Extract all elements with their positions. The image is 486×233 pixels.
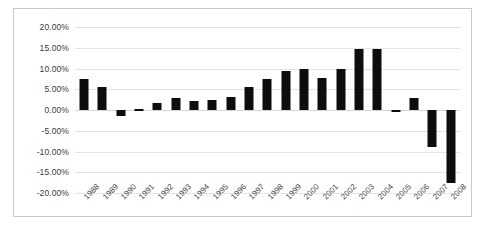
bar [98, 87, 107, 110]
bar-slot [368, 27, 386, 193]
bar [245, 87, 254, 110]
bar [318, 78, 327, 110]
bar [80, 79, 89, 110]
y-axis-labels: 20.00%15.00%10.00%5.00%0.00%-5.00%-10.00… [14, 27, 72, 193]
bar-slot [332, 27, 350, 193]
bar [226, 97, 235, 110]
bar-slot [405, 27, 423, 193]
y-axis-tick-label: 20.00% [40, 22, 69, 32]
bar-slot [222, 27, 240, 193]
bar [153, 103, 162, 110]
bar [336, 69, 345, 111]
y-axis-tick-label: -20.00% [37, 188, 69, 198]
y-axis-tick-label: 10.00% [40, 64, 69, 74]
bar-slot [442, 27, 460, 193]
bar-slot [203, 27, 221, 193]
bar-slot [258, 27, 276, 193]
bar-series [75, 27, 460, 193]
bar [446, 110, 455, 183]
bar-slot [167, 27, 185, 193]
bar [208, 100, 217, 110]
bar [410, 98, 419, 110]
bar [373, 49, 382, 110]
bar [171, 98, 180, 110]
bar [391, 110, 400, 112]
bar-slot [93, 27, 111, 193]
bar-slot [423, 27, 441, 193]
y-axis-tick-label: -10.00% [37, 147, 69, 157]
y-axis-tick-label: -15.00% [37, 167, 69, 177]
bar [116, 110, 125, 116]
bar [263, 79, 272, 110]
bar-slot [295, 27, 313, 193]
bar-slot [387, 27, 405, 193]
y-axis-tick-label: 15.00% [40, 43, 69, 53]
bar [428, 110, 437, 147]
bar [281, 71, 290, 110]
bar-slot [240, 27, 258, 193]
bar-slot [313, 27, 331, 193]
x-axis-labels: 1988198919901991199219931994199519961997… [75, 195, 460, 233]
bar [355, 49, 364, 110]
bar-slot [75, 27, 93, 193]
bar-slot [350, 27, 368, 193]
y-axis-tick-label: 5.00% [44, 84, 69, 94]
chart-frame: 20.00%15.00%10.00%5.00%0.00%-5.00%-10.00… [13, 8, 472, 217]
bar-slot [185, 27, 203, 193]
bar-slot [277, 27, 295, 193]
bar-slot [130, 27, 148, 193]
bar [135, 109, 144, 111]
y-axis-tick-label: -5.00% [41, 126, 69, 136]
bar-slot [112, 27, 130, 193]
bar [190, 101, 199, 110]
plot-area [75, 27, 460, 193]
bar-slot [148, 27, 166, 193]
bar [300, 69, 309, 110]
y-axis-tick-label: 0.00% [44, 105, 69, 115]
